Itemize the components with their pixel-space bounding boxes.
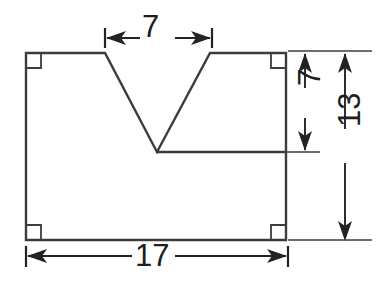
right-angle-marker-top-left <box>26 53 41 68</box>
diagram-canvas <box>0 0 388 294</box>
dimension-label-total-width: 17 <box>135 240 169 271</box>
geometry-diagram: 7 7 13 17 <box>0 0 388 294</box>
dimension-label-notch-width: 7 <box>142 11 159 42</box>
notched-rectangle-outline <box>26 53 286 240</box>
right-angle-marker-top-right <box>271 53 286 68</box>
right-angle-marker-bottom-right <box>271 225 286 240</box>
dimension-label-total-height: 13 <box>334 93 365 127</box>
dimension-label-notch-depth: 7 <box>294 69 325 86</box>
right-angle-marker-bottom-left <box>26 225 41 240</box>
